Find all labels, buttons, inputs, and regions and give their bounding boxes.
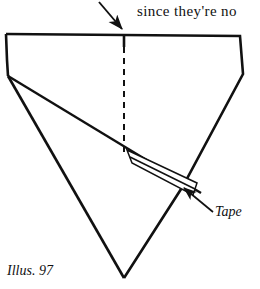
tape-label: Tape: [215, 204, 242, 219]
sheet-left-edge: [6, 34, 8, 76]
sheet-left-diagonal: [8, 76, 124, 278]
fold-direction-arrow: [99, 2, 122, 29]
illustration-figure: Tape: [0, 0, 260, 289]
tape-inner-line: [130, 157, 195, 189]
figure-caption: Illus. 97: [7, 264, 53, 278]
